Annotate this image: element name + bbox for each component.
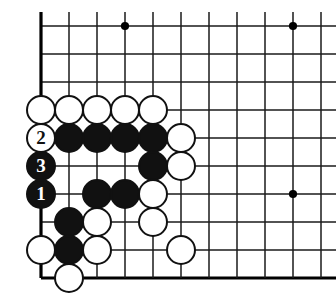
white-stone[interactable]: [82, 95, 112, 125]
star-point-hoshi: [121, 22, 129, 30]
black-stone[interactable]: [54, 123, 84, 153]
white-stone[interactable]: [138, 207, 168, 237]
black-stone[interactable]: [138, 123, 168, 153]
black-stone[interactable]: [110, 123, 140, 153]
white-stone[interactable]: [110, 95, 140, 125]
white-stone[interactable]: [26, 235, 56, 265]
white-stone[interactable]: [54, 263, 84, 293]
white-stone[interactable]: [138, 179, 168, 209]
black-stone[interactable]: [54, 235, 84, 265]
white-stone[interactable]: [166, 235, 196, 265]
black-stone[interactable]: [138, 151, 168, 181]
move-stone-3[interactable]: 3: [26, 151, 56, 181]
black-stone[interactable]: [82, 123, 112, 153]
white-stone[interactable]: [54, 95, 84, 125]
black-stone[interactable]: [54, 207, 84, 237]
white-stone[interactable]: [166, 151, 196, 181]
black-stone[interactable]: [82, 179, 112, 209]
go-board-diagram: 231: [0, 0, 336, 299]
star-point-hoshi: [289, 190, 297, 198]
move-stone-1[interactable]: 1: [26, 179, 56, 209]
black-stone[interactable]: [110, 179, 140, 209]
star-point-hoshi: [289, 22, 297, 30]
white-stone[interactable]: [82, 235, 112, 265]
move-stone-2[interactable]: 2: [26, 123, 56, 153]
white-stone[interactable]: [82, 207, 112, 237]
white-stone[interactable]: [138, 95, 168, 125]
move-number-label: 2: [36, 128, 46, 147]
move-number-label: 1: [36, 184, 46, 203]
move-number-label: 3: [36, 156, 46, 175]
white-stone[interactable]: [166, 123, 196, 153]
white-stone[interactable]: [26, 95, 56, 125]
